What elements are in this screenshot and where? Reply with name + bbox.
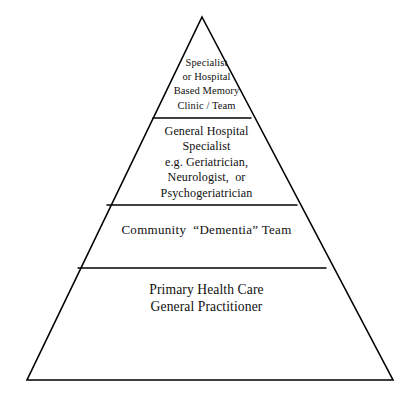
pyramid-tier-1-label: Specialist or Hospital Based Memory Clin… [0, 56, 413, 113]
pyramid-tier-4-label: Primary Health Care General Practitioner [0, 281, 413, 316]
pyramid-tier-3-label: Community “Dementia” Team [0, 222, 413, 238]
pyramid-diagram-page: Specialist or Hospital Based Memory Clin… [0, 0, 413, 397]
pyramid-tier-2-label: General Hospital Specialist e.g. Geriatr… [0, 124, 413, 201]
